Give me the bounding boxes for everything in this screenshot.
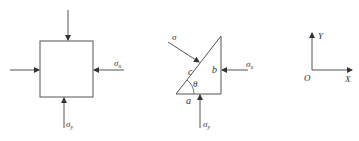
sigma-y-label: σy bbox=[66, 119, 73, 130]
origin-label: O bbox=[304, 73, 311, 83]
x-axis-label: X bbox=[344, 74, 351, 84]
y-axis-label: Y bbox=[318, 31, 324, 41]
sigma-label: σ bbox=[172, 32, 177, 42]
side-c-label: c bbox=[188, 66, 193, 77]
side-b-label: b bbox=[212, 64, 217, 75]
sigma-x-label: σx bbox=[246, 59, 253, 70]
theta-label: θ bbox=[193, 79, 198, 89]
sigma-normal-arrow bbox=[168, 42, 199, 62]
sigma-x-label: σx bbox=[114, 58, 121, 69]
sigma-y-label: σy bbox=[203, 119, 210, 130]
side-a-label: a bbox=[186, 95, 191, 106]
coordinate-axes: Y X O bbox=[304, 31, 352, 84]
triangle-wedge-figure: σ c b θ a σx σy bbox=[168, 32, 253, 130]
stress-square-figure: σx σy bbox=[10, 10, 124, 130]
square-element bbox=[40, 41, 93, 97]
